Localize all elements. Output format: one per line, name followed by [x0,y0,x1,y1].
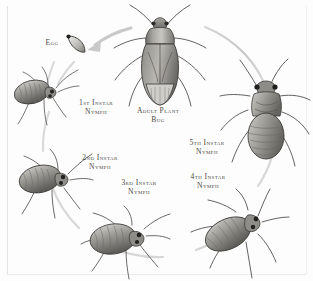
adult-plant-bug-icon [108,2,212,110]
label-egg: Egg [28,39,76,48]
label-egg-line1: Egg [28,39,76,48]
fourth-instar-nymph-icon [186,188,290,280]
label-third-instar-line2: Nymph [99,188,179,197]
label-second-instar-line2: Nymph [60,163,140,172]
label-third-instar-nymph: 3rd Instar Nymph [99,179,179,197]
label-adult-plant-bug: Adult Plant Bug [118,107,198,125]
label-fourth-instar-line2: Nymph [168,182,248,191]
label-fifth-instar-line2: Nymph [167,148,247,157]
third-instar-nymph-icon [80,205,172,281]
label-second-instar-nymph: 2nd Instar Nymph [60,154,140,172]
label-adult-line2: Bug [118,116,198,125]
label-fourth-instar-nymph: 4th Instar Nymph [168,173,248,191]
label-fifth-instar-nymph: 5th Instar Nymph [167,139,247,157]
first-instar-nymph-icon [6,66,80,126]
life-cycle-figure: Egg 1st Instar Nymph 2nd Instar Nymph 3r… [0,0,313,281]
